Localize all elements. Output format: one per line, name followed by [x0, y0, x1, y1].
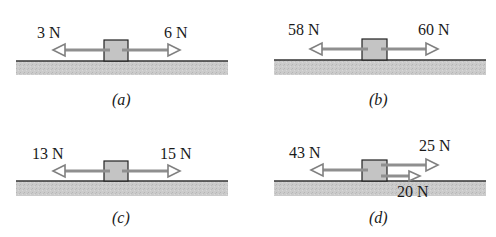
panel-caption: (d) — [369, 209, 388, 227]
panel-d: 43 N 25 N 20 N (d) — [274, 137, 486, 227]
ground-surface — [16, 181, 228, 196]
panel-c: 13 N 15 N (c) — [16, 145, 228, 227]
panel-caption: (b) — [369, 91, 388, 109]
force-arrow-right — [122, 165, 180, 177]
force-arrow-left — [53, 165, 110, 177]
force-label-left: 58 N — [288, 21, 320, 38]
force-label-right-lower: 20 N — [397, 183, 429, 200]
force-label-right: 60 N — [418, 21, 450, 38]
force-label-right-upper: 25 N — [419, 137, 451, 154]
force-arrow-left — [310, 43, 368, 55]
ground-surface — [274, 181, 486, 196]
panel-a: 3 N 6 N (a) — [16, 24, 228, 109]
force-arrow-left — [311, 164, 368, 176]
force-label-left: 43 N — [289, 144, 321, 161]
panel-caption: (c) — [112, 209, 130, 227]
force-arrow-left — [53, 44, 110, 56]
force-arrow-right-upper — [381, 159, 438, 171]
force-arrow-right — [381, 43, 438, 55]
ground-surface — [16, 61, 228, 75]
force-label-left: 3 N — [37, 24, 61, 41]
force-arrow-right — [122, 44, 180, 56]
force-label-right: 15 N — [160, 145, 192, 162]
panel-b: 58 N 60 N (b) — [274, 21, 486, 109]
force-label-left: 13 N — [32, 145, 64, 162]
force-label-right: 6 N — [164, 24, 188, 41]
panel-caption: (a) — [112, 91, 131, 109]
force-diagrams: 3 N 6 N (a) 58 N 60 N (b) 13 N — [0, 0, 496, 237]
ground-surface — [274, 60, 486, 75]
